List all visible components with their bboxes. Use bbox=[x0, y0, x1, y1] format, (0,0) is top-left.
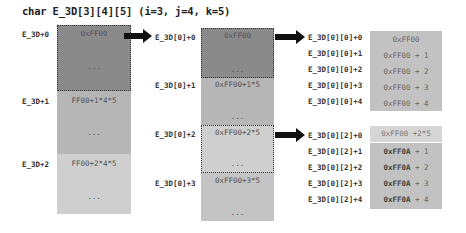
label-e3d00-0: E_3D[0][0]+0 bbox=[308, 33, 362, 42]
element-value: 0xFF00 +2*5 bbox=[370, 125, 442, 142]
block-e3d02-rest: 0xFF0A + 1 0xFF0A + 2 0xFF0A + 3 0xFF0A … bbox=[370, 143, 442, 209]
label-e3d02-2: E_3D[0][2]+2 bbox=[308, 163, 362, 172]
element-offset: + 2 bbox=[411, 163, 429, 172]
element-offset: + 4 bbox=[411, 195, 429, 204]
block-ellipsis: ... bbox=[202, 65, 273, 74]
block-value: FF00+2*4*5 bbox=[57, 159, 131, 168]
element-value: 0xFF00 bbox=[370, 31, 442, 48]
label-e3d-2: E_3D+2 bbox=[22, 160, 49, 169]
diagram-title: char E_3D[3][4][5] (i=3, j=4, k=5) bbox=[22, 5, 230, 17]
block-value: 0xFF00+2*5 bbox=[202, 128, 273, 137]
label-e3d00-1: E_3D[0][0]+1 bbox=[308, 49, 362, 58]
label-e3d0-0: E_3D[0]+0 bbox=[155, 33, 196, 42]
label-e3d0-1: E_3D[0]+1 bbox=[155, 81, 196, 90]
block-value: 0xFF00+1*5 bbox=[201, 80, 274, 89]
label-e3d-1: E_3D+1 bbox=[22, 97, 49, 106]
element-base: 0xFF0A bbox=[383, 147, 410, 156]
label-e3d-0: E_3D+0 bbox=[22, 30, 49, 39]
label-e3d00-3: E_3D[0][0]+3 bbox=[308, 81, 362, 90]
block-e3d0-0: 0xFF00 ... bbox=[201, 28, 274, 78]
block-ellipsis: ... bbox=[202, 159, 273, 168]
block-value: 0xFF00 bbox=[202, 31, 273, 40]
block-e3d-1: FF00+1*4*5 ... bbox=[57, 91, 131, 154]
block-ellipsis: ... bbox=[57, 192, 131, 201]
label-e3d02-1: E_3D[0][2]+1 bbox=[308, 147, 362, 156]
block-value: 0xFF00+3*5 bbox=[201, 176, 274, 185]
element-base: 0xFF0A bbox=[383, 163, 410, 172]
arrow-right-icon bbox=[124, 33, 144, 39]
element-offset: + 1 bbox=[411, 147, 429, 156]
block-e3d0-2: 0xFF00+2*5 ... bbox=[201, 125, 274, 173]
block-ellipsis: ... bbox=[201, 112, 274, 121]
label-e3d02-4: E_3D[0][2]+4 bbox=[308, 195, 362, 204]
arrow-right-icon bbox=[275, 34, 297, 40]
element-value: 0xFF00 + 2 bbox=[370, 63, 442, 80]
element-value: 0xFF00 + 3 bbox=[370, 79, 442, 96]
element-value: 0xFF00 + 1 bbox=[370, 47, 442, 64]
label-e3d02-0: E_3D[0][2]+0 bbox=[308, 131, 362, 140]
block-ellipsis: ... bbox=[58, 62, 130, 71]
label-e3d00-4: E_3D[0][0]+4 bbox=[308, 97, 362, 106]
element-offset: + 3 bbox=[411, 179, 429, 188]
block-value: FF00+1*4*5 bbox=[57, 96, 131, 105]
label-e3d00-2: E_3D[0][0]+2 bbox=[308, 65, 362, 74]
element-base: 0xFF0A bbox=[383, 179, 410, 188]
block-ellipsis: ... bbox=[57, 128, 131, 137]
label-e3d02-3: E_3D[0][2]+3 bbox=[308, 179, 362, 188]
block-e3d0-1: 0xFF00+1*5 ... bbox=[201, 78, 274, 125]
arrow-right-icon bbox=[275, 132, 297, 138]
block-e3d-0: 0xFF00 ... bbox=[57, 25, 131, 91]
block-value: 0xFF00 bbox=[58, 29, 130, 38]
element-base: 0xFF0A bbox=[383, 195, 410, 204]
block-e3d02-first: 0xFF00 +2*5 bbox=[370, 126, 442, 142]
block-ellipsis: ... bbox=[201, 208, 274, 217]
block-e3d-2: FF00+2*4*5 ... bbox=[57, 154, 131, 214]
block-e3d0-3: 0xFF00+3*5 ... bbox=[201, 173, 274, 221]
label-e3d0-2: E_3D[0]+2 bbox=[155, 130, 196, 139]
element-value: 0xFF00 + 4 bbox=[370, 95, 442, 112]
block-e3d00: 0xFF00 0xFF00 + 1 0xFF00 + 2 0xFF00 + 3 … bbox=[370, 31, 442, 111]
label-e3d0-3: E_3D[0]+3 bbox=[155, 179, 196, 188]
